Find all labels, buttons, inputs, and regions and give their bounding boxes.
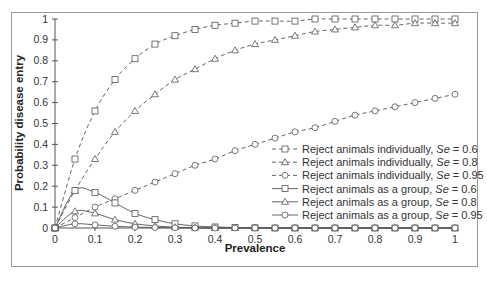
legend-item: Reject animals individually, Se = 0.8: [272, 156, 478, 168]
x-tick-label: 0.4: [208, 233, 223, 245]
legend-label: Reject animals individually, Se = 0.6: [302, 143, 478, 155]
circle-marker: [212, 225, 218, 231]
x-tick-label: 0.3: [168, 233, 183, 245]
legend-item: Reject animals individually, Se = 0.95: [272, 169, 484, 181]
legend-circle-marker: [282, 172, 288, 178]
x-tick-label: 0: [52, 233, 58, 245]
square-marker: [232, 20, 238, 26]
triangle-marker: [92, 156, 99, 162]
circle-marker: [232, 148, 238, 154]
x-tick-label: 0.1: [88, 233, 103, 245]
legend-item: Reject animals individually, Se = 0.6: [272, 143, 478, 155]
y-tick-label: 0.8: [33, 54, 48, 66]
circle-marker: [452, 225, 458, 231]
circle-marker: [332, 225, 338, 231]
square-marker: [112, 200, 118, 206]
circle-marker: [272, 225, 278, 231]
square-marker: [332, 16, 338, 22]
circle-marker: [432, 95, 438, 101]
square-marker: [312, 16, 318, 22]
y-tick-label: 0: [42, 222, 48, 234]
circle-marker: [352, 225, 358, 231]
circle-marker: [252, 225, 258, 231]
square-marker: [152, 41, 158, 47]
circle-marker: [352, 112, 358, 118]
square-marker: [172, 33, 178, 39]
legend-circle-marker: [282, 212, 288, 218]
square-marker: [352, 16, 358, 22]
triangle-marker: [172, 76, 179, 82]
legend-label: Reject animals individually, Se = 0.95: [302, 169, 484, 181]
circle-marker: [152, 179, 158, 185]
y-axis-label: Probability disease entry: [13, 54, 25, 191]
square-marker: [132, 210, 138, 216]
circle-marker: [292, 225, 298, 231]
legend-label: Reject animals individually, Se = 0.8: [302, 156, 478, 168]
circle-marker: [292, 129, 298, 135]
circle-marker: [392, 104, 398, 110]
x-axis-label: Prevalence: [225, 242, 286, 254]
circle-marker: [372, 225, 378, 231]
x-tick-label: 0.8: [368, 233, 383, 245]
circle-marker: [332, 118, 338, 124]
square-marker: [92, 108, 98, 114]
y-tick-label: 0.9: [33, 33, 48, 45]
legend-triangle-marker: [282, 198, 289, 204]
y-tick-label: 1: [42, 13, 48, 25]
triangle-marker: [132, 107, 139, 113]
circle-marker: [392, 225, 398, 231]
y-tick-label: 0.3: [33, 159, 48, 171]
x-tick-label: 0.7: [328, 233, 343, 245]
y-tick-label: 0.6: [33, 96, 48, 108]
triangle-marker: [192, 66, 199, 72]
legend-item: Reject animals as a group, Se = 0.95: [272, 209, 483, 221]
circle-marker: [192, 225, 198, 231]
x-tick-label: 0.6: [288, 233, 303, 245]
square-marker: [72, 156, 78, 162]
square-marker: [72, 187, 78, 193]
line-chart: 00.10.20.30.40.50.60.70.80.9100.10.20.30…: [0, 0, 487, 281]
triangle-marker: [112, 128, 119, 134]
square-marker: [252, 18, 258, 24]
circle-marker: [232, 225, 238, 231]
circle-marker: [132, 187, 138, 193]
circle-marker: [92, 222, 98, 228]
circle-marker: [212, 156, 218, 162]
triangle-marker: [152, 91, 159, 97]
square-marker: [292, 18, 298, 24]
circle-marker: [172, 225, 178, 231]
circle-marker: [372, 108, 378, 114]
circle-marker: [412, 225, 418, 231]
circle-marker: [432, 225, 438, 231]
circle-marker: [312, 125, 318, 131]
square-marker: [272, 18, 278, 24]
square-marker: [132, 56, 138, 62]
square-marker: [112, 77, 118, 83]
legend: Reject animals individually, Se = 0.6Rej…: [272, 143, 484, 221]
triangle-marker: [212, 55, 219, 61]
y-tick-label: 0.5: [33, 117, 48, 129]
x-tick-label: 1: [452, 233, 458, 245]
square-marker: [212, 22, 218, 28]
circle-marker: [132, 224, 138, 230]
circle-marker: [252, 141, 258, 147]
circle-marker: [272, 135, 278, 141]
circle-marker: [72, 215, 78, 221]
y-tick-label: 0.1: [33, 201, 48, 213]
circle-marker: [152, 225, 158, 231]
legend-square-marker: [282, 146, 288, 152]
y-tick-label: 0.2: [33, 180, 48, 192]
circle-marker: [112, 223, 118, 229]
legend-label: Reject animals as a group, Se = 0.6: [302, 183, 477, 195]
x-tick-label: 0.2: [128, 233, 143, 245]
circle-marker: [192, 162, 198, 168]
triangle-marker: [372, 22, 379, 28]
circle-marker: [172, 171, 178, 177]
circle-marker: [72, 221, 78, 227]
legend-item: Reject animals as a group, Se = 0.6: [272, 183, 477, 195]
legend-item: Reject animals as a group, Se = 0.8: [272, 196, 477, 208]
circle-marker: [412, 100, 418, 106]
triangle-marker: [392, 22, 399, 28]
y-tick-label: 0.4: [33, 138, 48, 150]
y-tick-label: 0.7: [33, 75, 48, 87]
